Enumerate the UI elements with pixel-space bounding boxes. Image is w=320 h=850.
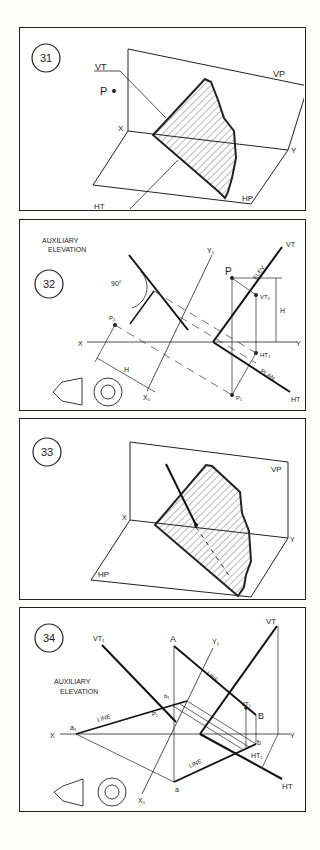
label-vt1: VT₁ <box>241 701 251 707</box>
label-y1: Y₁ <box>212 638 220 645</box>
label-x1: X₁ <box>138 797 146 804</box>
label-y: Y <box>290 536 295 543</box>
frustum-icon <box>54 779 83 806</box>
label-y: Y <box>290 732 295 739</box>
label-line-aux: LINE <box>97 713 112 723</box>
label-vp: VP <box>273 69 285 79</box>
label-ht: HT <box>291 396 301 403</box>
label-hp: HP <box>242 194 253 203</box>
figure-33-panel: 33 VP HP X Y <box>19 418 306 600</box>
label-angle: 90° <box>111 280 122 287</box>
label-ht1: HT₁ <box>251 752 263 759</box>
label-vt1-aux: VT₁ <box>93 635 105 642</box>
label-vt: VT <box>266 617 276 626</box>
concentric-circle-icon <box>94 378 122 406</box>
oblique-plane <box>153 79 236 198</box>
label-h-left: H <box>124 366 129 373</box>
label-ht2: HT₂ <box>260 352 271 358</box>
figure-31-panel: 31 VT VP P X Y HT HP <box>19 27 306 211</box>
figure-number: 31 <box>40 52 52 64</box>
label-line-plan: LINE <box>188 758 203 769</box>
label-elevation: ELEVATION <box>60 688 98 695</box>
label-ht: HT <box>94 202 105 209</box>
label-p: P <box>225 266 232 277</box>
label-p: P <box>100 85 107 97</box>
label-auxiliary: AUXILIARY <box>54 678 91 685</box>
label-ht: HT <box>282 782 293 791</box>
figure-number: 34 <box>43 632 55 644</box>
label-b1: b₁ <box>164 693 169 699</box>
label-x: X <box>50 732 55 739</box>
figure-32-panel: AUXILIARY ELEVATION 32 X Y Y₁ X₁ VT HT E… <box>19 219 306 411</box>
label-a-lower: a <box>175 786 179 793</box>
label-vp: VP <box>271 465 282 474</box>
label-a-upper: A <box>170 634 176 644</box>
frustum-icon <box>53 378 82 405</box>
figure-number: 33 <box>41 446 53 458</box>
label-vt: VT <box>286 241 296 248</box>
label-y: Y <box>296 340 301 347</box>
label-auxiliary: AUXILIARY <box>42 237 79 244</box>
figure-31-drawing: 31 VT VP P X Y HT HP <box>20 28 304 209</box>
label-b-upper: B <box>258 711 264 721</box>
figure-34-panel: 34 AUXILIARY ELEVATION X Y Y₁ X₁ VT HT V… <box>19 607 306 812</box>
label-vt2: VT₂ <box>260 294 271 300</box>
label-x: X <box>122 514 127 521</box>
label-p1: P₁ <box>236 395 242 401</box>
label-x1: X₁ <box>143 394 151 401</box>
label-x: X <box>118 124 124 133</box>
point-p <box>112 89 116 93</box>
label-p2: P₂ <box>109 315 116 321</box>
label-b-lower: b <box>257 739 261 746</box>
figure-34-drawing: 34 AUXILIARY ELEVATION X Y Y₁ X₁ VT HT V… <box>20 608 304 810</box>
label-a1: a₁ <box>70 724 77 731</box>
label-vt: VT <box>95 62 107 72</box>
figure-33-drawing: 33 VP HP X Y <box>20 419 304 598</box>
figure-32-drawing: AUXILIARY ELEVATION 32 X Y Y₁ X₁ VT HT E… <box>20 220 304 409</box>
label-y1: Y₁ <box>207 247 215 254</box>
figure-number: 32 <box>43 278 55 290</box>
label-x: X <box>78 340 83 347</box>
label-p1: P₁ <box>152 711 158 717</box>
concentric-circle-icon <box>98 778 126 806</box>
label-hp: HP <box>98 570 109 579</box>
label-elevation: ELEVATION <box>48 246 86 253</box>
label-h-right: H <box>280 307 285 314</box>
label-y: Y <box>291 146 297 155</box>
